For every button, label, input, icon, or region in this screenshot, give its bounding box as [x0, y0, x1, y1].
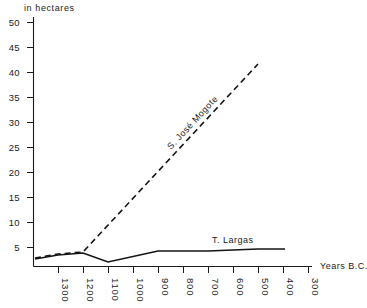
x-axis-tick-labels: 1300 1200 1100 1000 900 800 700 600 500 …: [60, 278, 321, 302]
y-tick-label: 30: [9, 117, 20, 128]
x-axis-caption: Years B.C.: [320, 261, 367, 271]
chart-container: in hectares 50 45 40 35 30 25 20 15: [0, 0, 367, 308]
y-tick-label: 15: [9, 192, 20, 203]
x-tick-label: 900: [160, 278, 171, 296]
x-tick-label: 700: [210, 278, 221, 296]
x-tick-label: 500: [260, 278, 271, 296]
series-line-t-largas: [35, 249, 285, 262]
y-tick-label: 10: [9, 217, 20, 228]
y-axis-ticks: [27, 23, 34, 248]
y-tick-label: 50: [9, 17, 20, 28]
x-tick-label: 1000: [135, 278, 146, 302]
y-tick-label: 20: [9, 167, 20, 178]
y-tick-label: 25: [9, 142, 20, 153]
x-tick-label: 1200: [85, 278, 96, 302]
x-tick-label: 1100: [110, 278, 121, 302]
y-tick-label: 5: [14, 242, 20, 253]
series-line-s-jose-mogote: [35, 64, 258, 258]
x-tick-label: 300: [310, 278, 321, 296]
y-tick-label: 35: [9, 92, 20, 103]
x-tick-label: 400: [285, 278, 296, 296]
x-tick-label: 1300: [60, 278, 71, 302]
y-tick-label: 45: [9, 42, 20, 53]
x-tick-label: 600: [235, 278, 246, 296]
series-label-s-jose-mogote: S. José Mogote: [165, 94, 220, 152]
y-axis-tick-labels: 50 45 40 35 30 25 20 15 10 5: [9, 17, 20, 253]
y-tick-label: 40: [9, 67, 20, 78]
line-chart: in hectares 50 45 40 35 30 25 20 15: [0, 0, 367, 308]
x-tick-label: 800: [185, 278, 196, 296]
y-axis-caption: in hectares: [24, 3, 75, 13]
x-axis-ticks: [59, 267, 309, 274]
series-label-t-largas: T. Largas: [212, 235, 254, 245]
